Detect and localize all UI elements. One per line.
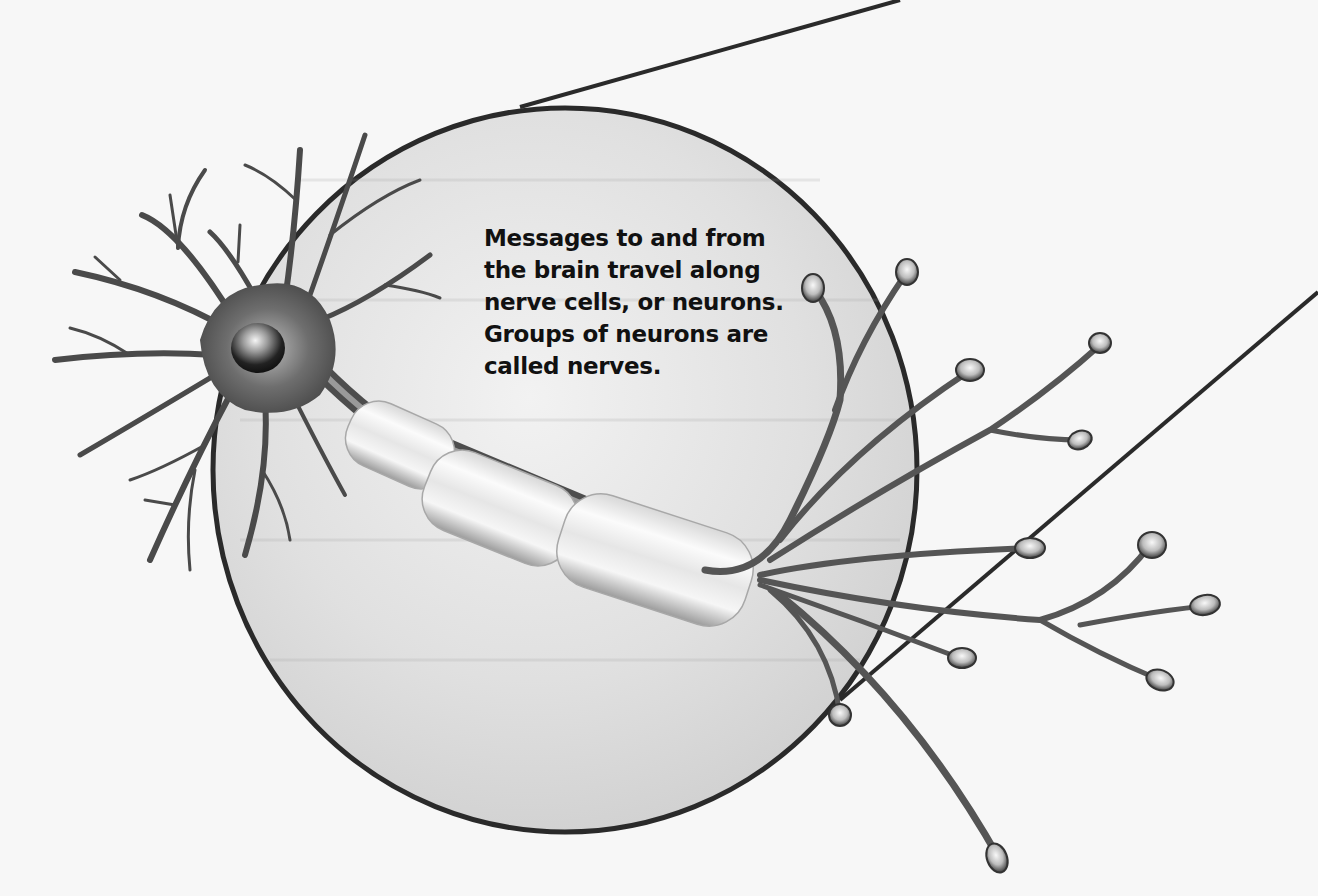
cell-body — [200, 283, 336, 413]
caption-line: the brain travel along — [484, 254, 804, 286]
caption-line: called nerves. — [484, 350, 804, 382]
caption-line: nerve cells, or neurons. — [484, 286, 804, 318]
caption-line: Messages to and from — [484, 222, 804, 254]
caption-line: Groups of neurons are — [484, 318, 804, 350]
nucleus — [231, 323, 285, 373]
neuron-diagram: Messages to and from the brain travel al… — [0, 0, 1318, 896]
caption-text: Messages to and from the brain travel al… — [484, 222, 804, 382]
